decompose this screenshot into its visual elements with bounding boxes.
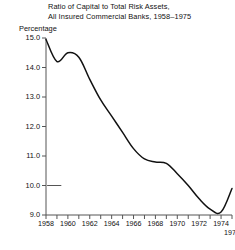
y-tick-marks	[42, 38, 46, 215]
chart-title-block: Ratio of Capital to Total Risk Assets, A…	[48, 2, 233, 22]
y-tick-label: 14.0	[14, 64, 40, 72]
y-tick-label: 10.0	[14, 182, 40, 190]
plot-area	[46, 38, 232, 215]
chart-figure: Ratio of Capital to Total Risk Assets, A…	[0, 0, 235, 250]
data-line-series	[46, 39, 232, 213]
chart-svg	[46, 38, 232, 215]
y-axis-label: Percentage	[19, 24, 57, 33]
y-tick-label: 15.0	[14, 34, 40, 42]
axes-group	[46, 38, 232, 215]
x-tick-label: 1974	[206, 220, 235, 228]
x-axis-end-label: 1975	[217, 229, 235, 237]
y-tick-label: 12.0	[14, 123, 40, 131]
y-tick-label: 9.0	[14, 211, 40, 219]
chart-subtitle: All Insured Commercial Banks, 1958–1975	[48, 12, 233, 22]
y-tick-label: 13.0	[14, 93, 40, 101]
x-tick-marks	[46, 215, 232, 219]
chart-title: Ratio of Capital to Total Risk Assets,	[48, 2, 233, 12]
y-tick-label: 11.0	[14, 152, 40, 160]
